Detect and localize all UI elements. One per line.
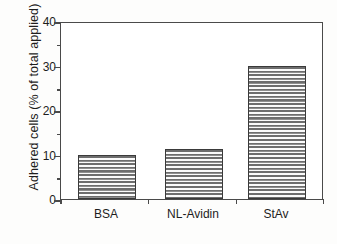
y-tick-label: 0 — [22, 193, 56, 207]
x-tick — [60, 199, 62, 204]
x-category-label-stav: StAv — [263, 207, 288, 221]
x-tick — [323, 199, 325, 204]
x-category-label-nl-avidin: NL-Avidin — [167, 207, 219, 221]
y-tick-label: 30 — [22, 60, 56, 74]
y-tick-minor — [57, 134, 61, 136]
y-tick-major — [54, 67, 61, 69]
y-tick-major — [54, 111, 61, 113]
y-tick-major — [54, 156, 61, 158]
x-tick — [148, 199, 150, 204]
x-category-label-bsa: BSA — [94, 207, 118, 221]
y-tick-minor — [57, 45, 61, 47]
y-tick-major — [54, 22, 61, 24]
y-tick-minor — [57, 89, 61, 91]
y-tick-label: 20 — [22, 104, 56, 118]
y-tick-label: 10 — [22, 149, 56, 163]
bar-bsa — [78, 155, 136, 200]
bar-stav — [248, 66, 306, 200]
y-tick-minor — [57, 178, 61, 180]
y-tick-label: 40 — [22, 15, 56, 29]
x-tick — [236, 199, 238, 204]
bar-nl-avidin — [165, 149, 223, 199]
bar-chart-figure: Adhered cells (% of total applied) 40 30… — [0, 0, 337, 244]
y-axis-tick-labels: 40 30 20 10 0 — [16, 0, 56, 244]
plot-area — [60, 22, 323, 200]
